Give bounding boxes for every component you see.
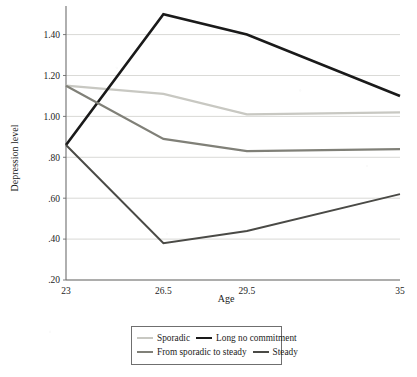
legend-label-long-no-commitment: Long no commitment <box>216 333 297 344</box>
legend-label-steady: Steady <box>273 347 298 358</box>
legend-row-1: Sporadic Long no commitment <box>137 331 276 345</box>
legend-entry-long-no-commitment: Long no commitment <box>196 333 297 344</box>
x-tick-label: 29.5 <box>239 286 256 296</box>
legend-swatch-sporadic <box>137 337 153 339</box>
legend-entry-from-sporadic-to-steady: From sporadic to steady <box>137 347 247 358</box>
series-line-from-sporadic-to-steady <box>66 86 400 151</box>
legend-row-2: From sporadic to steady Steady <box>137 345 276 359</box>
y-tick-label: 1.40 <box>43 30 60 40</box>
y-tick-label: .20 <box>48 275 60 285</box>
legend-entry-steady: Steady <box>253 347 298 358</box>
x-tick-label: 23 <box>61 286 71 296</box>
chart-legend: Sporadic Long no commitment From sporadi… <box>131 326 282 365</box>
y-axis-title: Depression level <box>9 124 20 191</box>
legend-swatch-long-no-commitment <box>196 337 212 339</box>
legend-label-sporadic: Sporadic <box>157 333 190 344</box>
y-tick-label: .60 <box>48 194 60 204</box>
legend-label-from-sporadic-to-steady: From sporadic to steady <box>157 347 247 358</box>
legend-entry-sporadic: Sporadic <box>137 333 190 344</box>
legend-swatch-steady <box>253 351 269 353</box>
line-chart-svg: .20.40.60.801.001.201.40 2326.529.535 De… <box>0 0 417 310</box>
series-line-steady <box>66 145 400 243</box>
gridlines-group <box>63 35 400 280</box>
chart-plot-area: .20.40.60.801.001.201.40 2326.529.535 De… <box>0 0 417 310</box>
x-axis-title: Age <box>218 293 235 304</box>
depression-level-by-age-figure: .20.40.60.801.001.201.40 2326.529.535 De… <box>0 0 417 377</box>
y-tick-label: .40 <box>48 234 60 244</box>
y-tick-labels-group: .20.40.60.801.001.201.40 <box>43 30 60 285</box>
x-tick-label: 35 <box>395 286 405 296</box>
series-line-long-no-commitment <box>66 14 400 145</box>
y-tick-label: 1.20 <box>43 71 60 81</box>
y-tick-label: .80 <box>48 153 60 163</box>
data-series-group <box>66 14 400 243</box>
legend-swatch-from-sporadic-to-steady <box>137 351 153 353</box>
series-line-sporadic <box>66 86 400 115</box>
x-tick-label: 26.5 <box>155 286 172 296</box>
y-tick-label: 1.00 <box>43 112 60 122</box>
